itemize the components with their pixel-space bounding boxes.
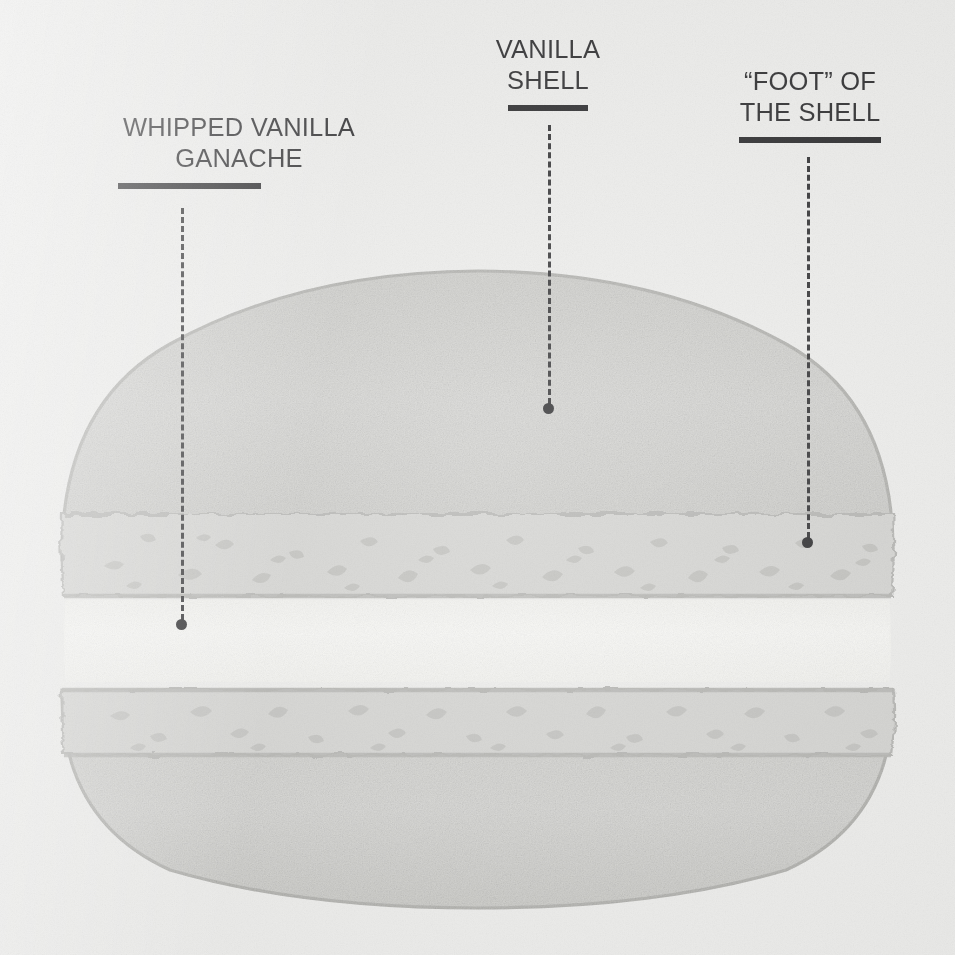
leader-dot-foot — [802, 537, 813, 548]
label-foot-of-the-shell: “FOOT” OF THE SHELL — [700, 66, 920, 143]
label-vanilla-shell: VANILLA SHELL — [428, 34, 668, 111]
bottom-shell — [61, 690, 894, 908]
leader-dot-vanilla-shell — [543, 403, 554, 414]
top-shell — [61, 271, 894, 596]
leader-line-ganache — [181, 208, 184, 620]
label-whipped-vanilla-ganache: WHIPPED VANILLA GANACHE — [29, 112, 449, 189]
label-vanilla-shell-text: VANILLA SHELL — [428, 34, 668, 96]
leader-dot-ganache — [176, 619, 187, 630]
leader-line-vanilla-shell — [548, 125, 551, 404]
label-whipped-vanilla-ganache-text: WHIPPED VANILLA GANACHE — [29, 112, 449, 174]
label-foot-of-the-shell-text: “FOOT” OF THE SHELL — [700, 66, 920, 128]
top-shell-foot-band — [61, 514, 894, 596]
label-foot-of-the-shell-rule — [739, 137, 881, 143]
leader-line-foot — [807, 157, 810, 538]
label-vanilla-shell-rule — [508, 105, 588, 111]
ganache-layer — [64, 600, 891, 682]
diagram-canvas: WHIPPED VANILLA GANACHE VANILLA SHELL “F… — [0, 0, 955, 955]
label-whipped-vanilla-ganache-rule — [118, 183, 261, 189]
bottom-shell-foot-band — [61, 690, 894, 755]
